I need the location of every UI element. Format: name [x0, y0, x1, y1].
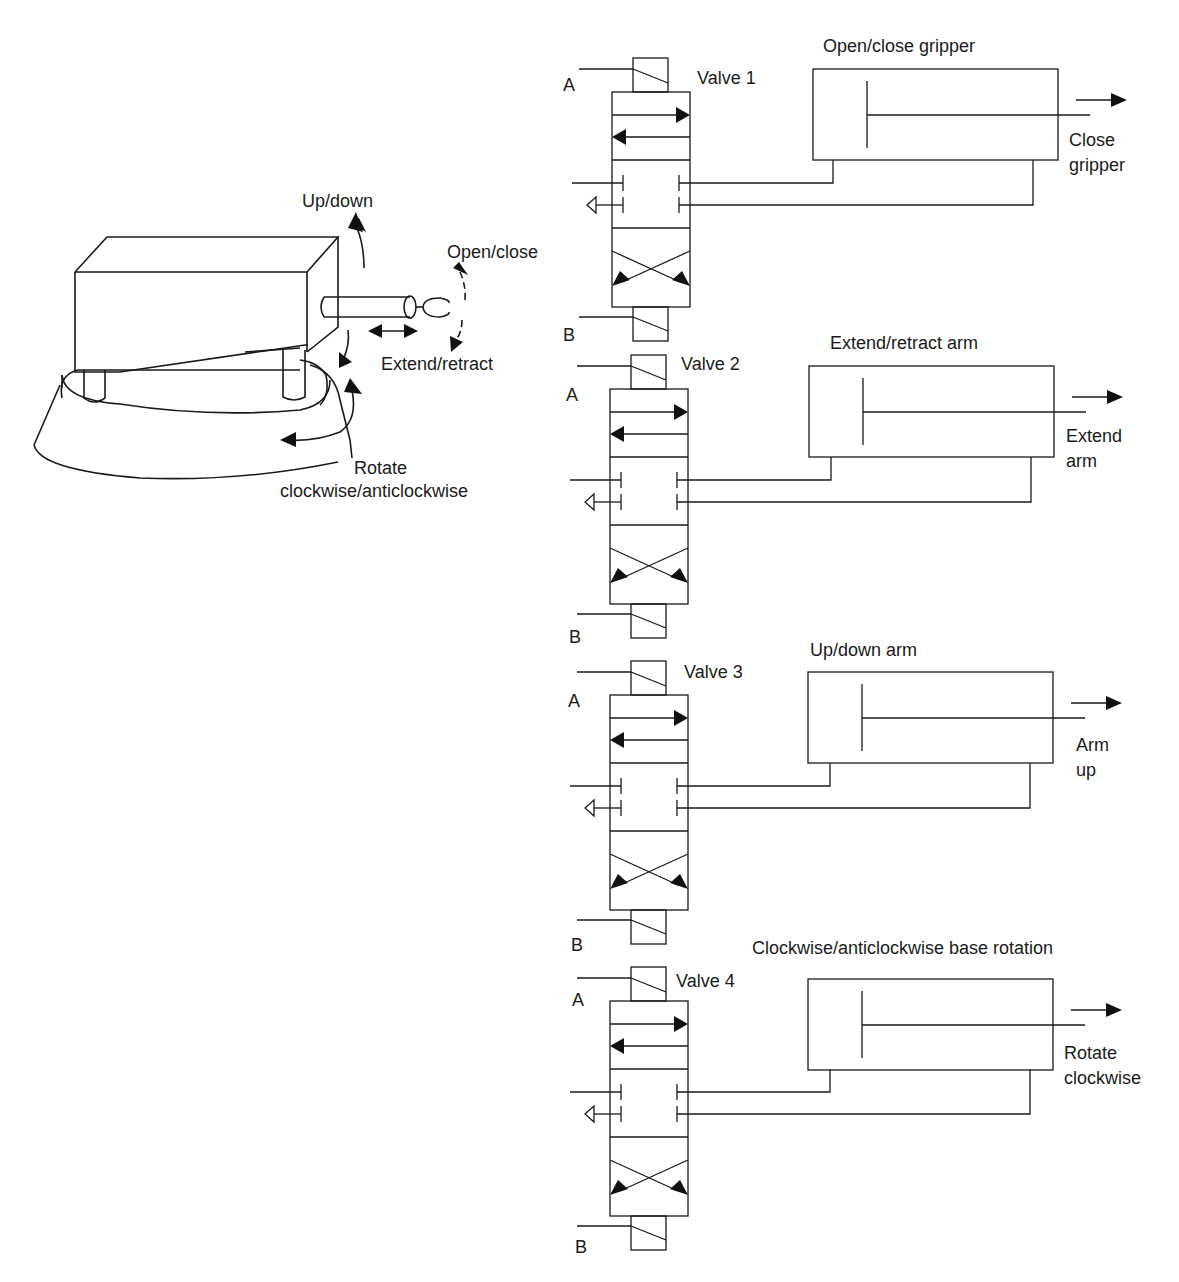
valve-1-port-a: A	[563, 75, 575, 95]
cylinder-4-title: Clockwise/anticlockwise base rotation	[752, 938, 1053, 958]
valve-2-circuit: Valve 2 A B Extend/retract arm Extend ar…	[566, 333, 1123, 647]
robot-legs	[84, 350, 305, 402]
valve-4-port-a: A	[572, 990, 584, 1010]
valve-2-label: Valve 2	[681, 354, 740, 374]
label-extend-retract: Extend/retract	[381, 354, 493, 374]
valve-1-port-b: B	[563, 325, 575, 345]
cylinder-4-action: Rotate	[1064, 1043, 1117, 1063]
up-down-arrow-icon	[339, 212, 366, 368]
valve-1-circuit: Valve 1 A B Open/close gripper Close gri…	[563, 36, 1127, 345]
label-rotate-direction: clockwise/anticlockwise	[280, 481, 468, 501]
valve-1-symbol	[572, 58, 690, 341]
valve-2-symbol	[570, 355, 688, 638]
cylinder-2-action-2: arm	[1066, 451, 1097, 471]
valve-4-port-b: B	[575, 1237, 587, 1257]
valve-3-symbol	[570, 661, 688, 944]
valve-4-circuit: Valve 4 A B Clockwise/anticlockwise base…	[570, 938, 1141, 1257]
cylinder-2-title: Extend/retract arm	[830, 333, 978, 353]
extend-retract-arrow-icon	[368, 324, 418, 338]
robot-body-box	[75, 237, 338, 372]
valve-4-line-a	[677, 1069, 830, 1092]
valve-3-label: Valve 3	[684, 662, 743, 682]
cylinder-3-action-2: up	[1076, 760, 1096, 780]
cylinder-1-action-2: gripper	[1069, 155, 1125, 175]
valve-3-port-a: A	[568, 691, 580, 711]
label-open-close: Open/close	[447, 242, 538, 262]
cylinder-3-symbol	[808, 672, 1122, 763]
cylinder-3-title: Up/down arm	[810, 640, 917, 660]
robot-illustration: IF	[34, 191, 538, 501]
label-up-down: Up/down	[302, 191, 373, 211]
cylinder-4-action-2: clockwise	[1064, 1068, 1141, 1088]
valve-2-port-b: B	[569, 627, 581, 647]
label-rotate: Rotate	[354, 458, 407, 478]
valve-4-label: Valve 4	[676, 971, 735, 991]
valve-1-label: Valve 1	[697, 68, 756, 88]
cylinder-1-action: Close	[1069, 130, 1115, 150]
valve-2-port-a: A	[566, 385, 578, 405]
valve-2-line-a	[677, 457, 831, 480]
valve-3-circuit: Valve 3 A B Up/down arm Arm up	[568, 640, 1122, 955]
cylinder-3-action: Arm	[1076, 735, 1109, 755]
valve-3-line-a	[677, 763, 830, 786]
robot-arm: IF	[321, 296, 449, 318]
valve-1-line-a	[679, 160, 833, 183]
open-close-arrow-icon	[450, 262, 468, 352]
cylinder-2-action: Extend	[1066, 426, 1122, 446]
valve-3-port-b: B	[571, 935, 583, 955]
pneumatic-robot-diagram: IF	[0, 0, 1179, 1282]
valve-4-symbol	[570, 967, 688, 1250]
cylinder-1-title: Open/close gripper	[823, 36, 975, 56]
